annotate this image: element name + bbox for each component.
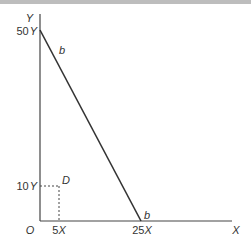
line-label-bottom: b [144,209,150,221]
point-d-label: D [62,174,70,186]
line-label-top: b [59,44,65,56]
tick-10y: 10Y [16,180,37,192]
tick-50y: 50Y [16,25,37,37]
tick-5x: 5X [52,224,66,236]
origin-label: O [26,224,35,236]
x-axis-label: X [231,224,240,236]
budget-line-diagram: Y 50Y 10Y 5X 25X O X b b D [0,0,251,246]
y-axis-label: Y [26,12,34,24]
tick-25x: 25X [132,224,152,236]
budget-line [40,30,141,221]
